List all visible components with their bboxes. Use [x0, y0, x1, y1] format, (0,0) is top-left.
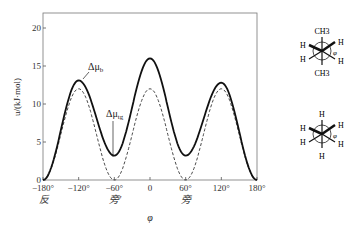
svg-text:CH3: CH3: [314, 27, 329, 36]
y-axis-label: u/(kJ·mol): [12, 78, 22, 116]
label-gauche: 旁: [181, 194, 193, 205]
energy-chart: 05101520 −180°−120°−60°060°120°180° u/(k…: [0, 0, 361, 230]
svg-text:60°: 60°: [179, 183, 192, 193]
svg-text:120°: 120°: [213, 183, 231, 193]
x-axis: −180°−120°−60°060°120°180°: [32, 177, 266, 193]
svg-text:−180°: −180°: [32, 183, 55, 193]
svg-text:Δμtg: Δμtg: [106, 108, 124, 121]
svg-text:−120°: −120°: [68, 183, 91, 193]
newman-projection-ethane: HHHHHHφ: [300, 110, 344, 161]
svg-text:180°: 180°: [248, 183, 266, 193]
svg-text:H: H: [300, 124, 306, 133]
newman-projection-butane: CH3CH3HHHHφ: [300, 27, 344, 78]
svg-text:H: H: [319, 152, 325, 161]
label-gauche-prime: 旁′: [109, 194, 122, 205]
plot-frame: [43, 13, 257, 180]
label-anti: 反: [39, 194, 50, 205]
svg-text:CH3: CH3: [314, 69, 329, 78]
x-axis-label: φ: [147, 212, 153, 223]
svg-text:H: H: [319, 110, 325, 119]
svg-text:15: 15: [32, 61, 42, 71]
series-mu-b: [43, 58, 257, 180]
svg-text:Δμb: Δμb: [88, 61, 104, 74]
svg-text:H: H: [338, 140, 344, 149]
svg-text:H: H: [338, 38, 344, 47]
svg-text:10: 10: [32, 99, 42, 109]
y-axis: 05101520: [32, 23, 46, 185]
svg-text:20: 20: [32, 23, 42, 33]
svg-text:H: H: [300, 41, 306, 50]
svg-text:H: H: [300, 55, 306, 64]
svg-text:φ: φ: [333, 132, 337, 140]
svg-text:φ: φ: [333, 49, 337, 57]
svg-text:H: H: [300, 138, 306, 147]
svg-text:H: H: [338, 57, 344, 66]
svg-text:H: H: [338, 121, 344, 130]
svg-text:5: 5: [37, 137, 42, 147]
series-mu-tg: [43, 89, 257, 180]
svg-text:−60°: −60°: [105, 183, 123, 193]
annotation-mu-b: Δμb: [83, 61, 104, 79]
svg-text:0: 0: [148, 183, 153, 193]
